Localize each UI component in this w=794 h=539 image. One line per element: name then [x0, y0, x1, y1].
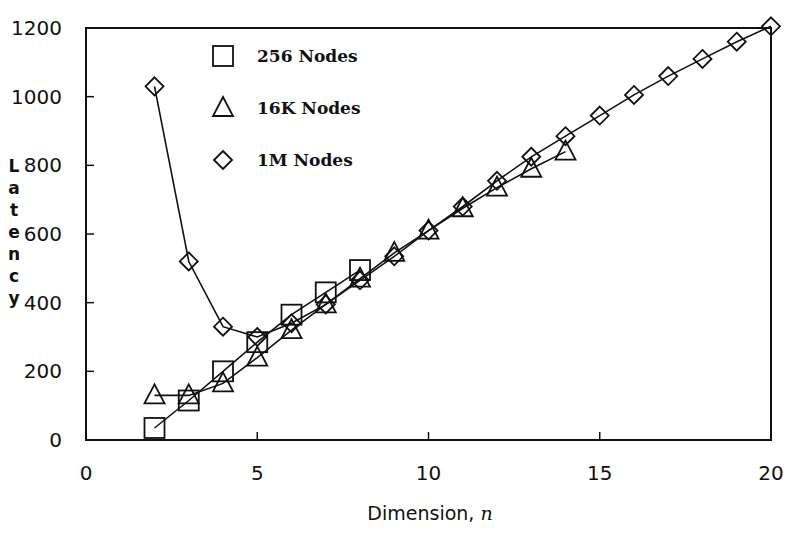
plot-frame	[86, 28, 771, 440]
plot-border	[86, 28, 771, 440]
y-title-letter: c	[9, 266, 19, 286]
latency-chart: 05101520020040060080010001200 256 Nodes1…	[0, 0, 794, 539]
diamond-marker-icon	[146, 77, 164, 95]
legend-label: 16K Nodes	[257, 98, 361, 118]
square-marker-icon	[213, 46, 233, 66]
y-title-letter: t	[10, 200, 18, 220]
y-tick-label: 600	[24, 222, 62, 246]
x-tick-label: 0	[80, 461, 93, 485]
legend-label: 1M Nodes	[257, 150, 353, 170]
square-marker-icon	[350, 260, 370, 280]
y-title-letter: e	[8, 222, 20, 242]
y-title-letter: L	[9, 156, 20, 176]
x-tick-label: 15	[587, 461, 612, 485]
series-layer	[145, 17, 781, 438]
series-line	[155, 26, 772, 337]
y-axis-title: Latency	[8, 156, 20, 308]
y-title-letter: a	[8, 178, 19, 198]
legend-item: 1M Nodes	[214, 150, 353, 170]
x-axis-title: Dimension, n	[367, 502, 492, 524]
diamond-marker-icon	[214, 151, 232, 169]
x-tick-label: 5	[251, 461, 264, 485]
triangle-marker-icon	[213, 97, 233, 116]
axis-ticks	[86, 97, 600, 440]
triangle-marker-icon	[145, 384, 165, 403]
legend-label: 256 Nodes	[257, 46, 358, 66]
legend: 256 Nodes16K Nodes1M Nodes	[213, 46, 361, 170]
legend-item: 16K Nodes	[213, 97, 361, 118]
x-tick-label: 10	[416, 461, 441, 485]
y-tick-label: 200	[24, 359, 62, 383]
legend-item: 256 Nodes	[213, 46, 358, 66]
y-tick-label: 800	[24, 153, 62, 177]
series-256-nodes	[145, 260, 371, 438]
triangle-marker-icon	[521, 158, 541, 177]
y-tick-label: 400	[24, 291, 62, 315]
y-tick-label: 1000	[11, 85, 62, 109]
y-title-letter: y	[8, 288, 19, 308]
y-title-letter: n	[8, 244, 20, 264]
x-tick-label: 20	[758, 461, 783, 485]
y-tick-label: 1200	[11, 16, 62, 40]
series-line	[155, 270, 361, 428]
series-1m-nodes	[146, 17, 781, 346]
triangle-marker-icon	[556, 141, 576, 160]
y-tick-label: 0	[49, 428, 62, 452]
